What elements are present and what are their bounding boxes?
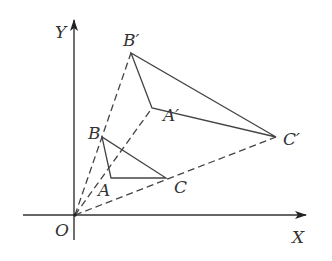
triangle-aprime-bprime-cprime <box>131 53 276 137</box>
y-axis-label: Y <box>55 22 68 42</box>
origin-point <box>73 213 77 217</box>
x-axis-label: X <box>290 227 305 247</box>
homothety-diagram: Y X O B′ A′ C′ B A C <box>0 0 332 261</box>
point-label-a-prime: A′ <box>161 105 179 125</box>
point-label-c-prime: C′ <box>283 129 300 149</box>
triangle-abc <box>102 137 166 178</box>
point-label-b: B <box>87 123 101 143</box>
point-label-a: A <box>96 180 110 200</box>
point-label-c: C <box>174 177 187 197</box>
point-label-b-prime: B′ <box>122 30 139 50</box>
origin-label: O <box>55 220 69 240</box>
